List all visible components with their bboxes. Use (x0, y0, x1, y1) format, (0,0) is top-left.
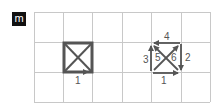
right-edge-label-4: 4 (164, 31, 170, 42)
right-edge-label-2: 2 (185, 52, 191, 63)
right-edge-label-3: 3 (143, 54, 149, 65)
grid-diagram: 1 1 2 3 4 5 6 (0, 0, 219, 106)
right-edge-label-5: 5 (155, 52, 161, 63)
left-square-figure (64, 43, 92, 72)
left-edge-label-1: 1 (75, 75, 81, 86)
right-edge-label-6: 6 (171, 52, 177, 63)
right-edge-label-1: 1 (161, 75, 167, 86)
